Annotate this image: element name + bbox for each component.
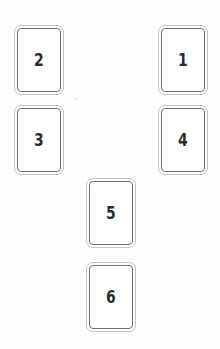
card-value: 5 (106, 205, 116, 222)
card-inner-border: 3 (17, 108, 61, 172)
card-1[interactable]: 1 (158, 25, 208, 95)
card-inner-border: 1 (161, 28, 205, 92)
card-4[interactable]: 4 (158, 105, 208, 175)
card-5[interactable]: 5 (86, 178, 136, 248)
scan-artifact-speck (74, 98, 79, 100)
card-value: 1 (178, 52, 188, 69)
card-inner-border: 4 (161, 108, 205, 172)
card-inner-border: 2 (17, 28, 61, 92)
card-layout-canvas: 2 1 3 4 5 6 (0, 0, 220, 349)
card-2[interactable]: 2 (14, 25, 64, 95)
card-value: 3 (34, 132, 44, 149)
card-inner-border: 5 (89, 181, 133, 245)
card-value: 2 (34, 52, 44, 69)
card-3[interactable]: 3 (14, 105, 64, 175)
card-6[interactable]: 6 (86, 262, 136, 332)
card-inner-border: 6 (89, 265, 133, 329)
card-value: 6 (106, 289, 116, 306)
card-value: 4 (178, 132, 188, 149)
